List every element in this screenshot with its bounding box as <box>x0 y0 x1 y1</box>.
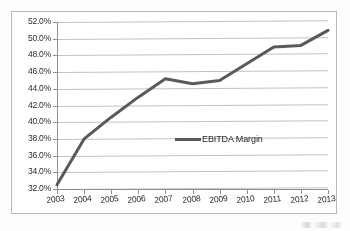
y-axis-label: 52.0% <box>12 17 51 26</box>
y-axis-label: 44.0% <box>12 84 51 93</box>
y-axis-label: 46.0% <box>12 67 51 76</box>
y-axis-label: 50.0% <box>12 34 51 43</box>
x-axis-label: 2008 <box>182 193 201 205</box>
y-axis-label: 32.0% <box>12 184 51 193</box>
scan-speckle-artifact <box>300 222 342 228</box>
y-axis-label: 40.0% <box>12 117 51 126</box>
y-axis-label: 34.0% <box>12 167 51 176</box>
scanned-page-background: 52.0%50.0%48.0%46.0%44.0%42.0%40.0%38.0%… <box>0 0 350 231</box>
chart-legend: EBITDA Margin <box>175 134 263 144</box>
y-axis-label: 38.0% <box>12 134 51 143</box>
x-axis-label: 2011 <box>263 193 281 205</box>
y-axis-label: 48.0% <box>12 50 51 59</box>
plot-wrapper: 52.0%50.0%48.0%46.0%44.0%42.0%40.0%38.0%… <box>12 12 336 213</box>
legend-label-ebitda-margin: EBITDA Margin <box>202 134 263 144</box>
series-ebitda-margin <box>57 22 328 189</box>
x-axis-label: 2004 <box>73 193 92 205</box>
x-axis-label: 2010 <box>236 193 255 205</box>
y-axis-label: 42.0% <box>12 101 51 110</box>
legend-swatch-ebitda-margin <box>175 138 201 141</box>
x-axis-label: 2012 <box>290 193 309 205</box>
x-axis-label: 2003 <box>46 193 65 205</box>
x-axis-label: 2013 <box>317 193 336 205</box>
x-axis-label: 2009 <box>209 193 228 205</box>
x-axis-label: 2006 <box>127 193 146 205</box>
y-axis-label: 36.0% <box>12 151 51 160</box>
series-line-ebitda-margin <box>57 30 328 184</box>
chart-frame: 52.0%50.0%48.0%46.0%44.0%42.0%40.0%38.0%… <box>11 11 337 214</box>
x-axis-label: 2007 <box>154 193 173 205</box>
x-axis-label: 2005 <box>100 193 119 205</box>
